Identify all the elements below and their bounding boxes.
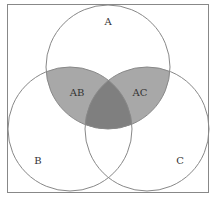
- label-a: A: [103, 16, 112, 27]
- label-ab: AB: [69, 87, 85, 98]
- venn-diagram: A AB AC B C: [0, 0, 214, 197]
- label-c: C: [176, 155, 184, 166]
- label-b: B: [34, 155, 41, 166]
- label-ac: AC: [132, 87, 148, 98]
